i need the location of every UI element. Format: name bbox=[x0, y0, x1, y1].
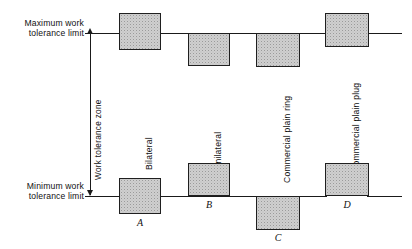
gauge-caption-b: B bbox=[188, 199, 230, 210]
maximum-limit-line-segment-2 bbox=[228, 33, 258, 34]
gauge-box-d-bottom bbox=[325, 163, 369, 196]
gauge-label-commercial-plain-ring: Commercial plain ring bbox=[282, 96, 292, 183]
work-tolerance-zone-label: Work tolerance zone bbox=[94, 99, 103, 180]
work-tolerance-zone-arrowhead-bottom bbox=[87, 190, 93, 196]
maximum-limit-label: Maximum work tolerance limit bbox=[6, 18, 84, 39]
minimum-limit-line-left bbox=[85, 196, 121, 197]
minimum-limit-line-segment-1 bbox=[158, 196, 256, 197]
work-tolerance-zone-arrowhead-top bbox=[87, 28, 93, 34]
gauge-caption-a: A bbox=[119, 217, 161, 228]
work-tolerance-zone-arrow-line bbox=[90, 34, 91, 195]
maximum-limit-line-right bbox=[367, 33, 402, 34]
gauge-label-commercial-plain-plug: Commercial plain plug bbox=[351, 83, 361, 172]
gauge-caption-c: C bbox=[256, 232, 300, 243]
gauge-box-a-bottom bbox=[119, 178, 161, 214]
maximum-limit-line-segment-3 bbox=[298, 33, 327, 34]
gauge-box-b-top bbox=[188, 33, 230, 66]
gauge-box-c-top bbox=[256, 33, 300, 67]
gauge-box-d-top bbox=[325, 13, 369, 47]
gauge-box-b-bottom bbox=[188, 163, 230, 196]
gauge-box-c-bottom bbox=[256, 196, 300, 230]
maximum-limit-line-segment-1 bbox=[158, 33, 190, 34]
gauge-label-bilateral: Bilateral bbox=[144, 137, 154, 170]
gauge-box-a-top bbox=[119, 13, 161, 50]
tolerance-diagram: Maximum work tolerance limit Minimum wor… bbox=[0, 0, 412, 249]
gauge-caption-d: D bbox=[325, 199, 369, 210]
minimum-limit-line-segment-2 bbox=[298, 196, 327, 197]
minimum-limit-label: Minimum work tolerance limit bbox=[6, 181, 84, 202]
minimum-limit-line-right bbox=[367, 196, 402, 197]
